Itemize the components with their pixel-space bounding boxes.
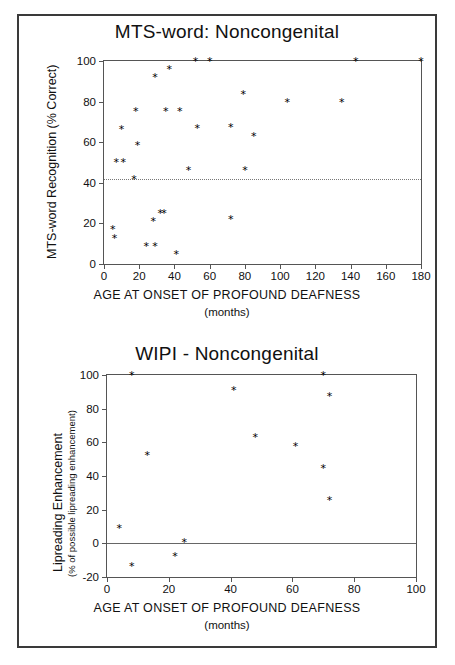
x-tick-label: 40	[224, 583, 237, 595]
y-tick-label: 20	[86, 504, 99, 516]
y-tick	[102, 543, 107, 544]
x-axis-unit-bottom: (months)	[19, 619, 435, 631]
data-point	[143, 451, 152, 460]
data-point	[251, 433, 260, 442]
data-point	[226, 123, 235, 132]
x-tick-label: 80	[348, 583, 361, 595]
data-point	[165, 65, 174, 74]
x-tick	[421, 264, 422, 269]
data-point	[129, 175, 138, 184]
data-point	[159, 209, 168, 218]
y-tick	[99, 102, 104, 103]
y-tick-label: 80	[86, 403, 99, 415]
x-tick	[292, 577, 293, 582]
y-tick-label: 60	[83, 136, 96, 148]
data-point	[131, 107, 140, 116]
data-point	[191, 57, 200, 66]
x-tick-label: 140	[341, 270, 360, 282]
data-point	[319, 371, 328, 380]
data-point	[229, 386, 238, 395]
x-tick	[245, 264, 246, 269]
x-tick-label: 160	[376, 270, 395, 282]
x-tick	[107, 577, 108, 582]
y-tick-label: 0	[90, 258, 96, 270]
data-point	[184, 166, 193, 175]
x-tick-label: 100	[271, 270, 290, 282]
x-tick	[416, 577, 417, 582]
y-tick-label: 60	[86, 436, 99, 448]
x-tick	[280, 264, 281, 269]
data-point	[351, 57, 360, 66]
x-tick	[315, 264, 316, 269]
data-point	[291, 442, 300, 451]
x-tick	[351, 264, 352, 269]
y-tick	[102, 442, 107, 443]
x-tick	[231, 577, 232, 582]
y-tick-label: -20	[82, 571, 99, 583]
x-tick-label: 20	[133, 270, 146, 282]
data-point	[249, 132, 258, 141]
x-tick-label: 40	[168, 270, 181, 282]
data-point	[325, 496, 334, 505]
data-point	[142, 242, 151, 251]
plot-area-bottom: -20020406080100020406080100	[106, 374, 417, 578]
reference-line	[104, 179, 421, 180]
data-point	[283, 98, 292, 107]
data-point	[226, 215, 235, 224]
plot-area-top: 020406080100020406080100120140160180	[103, 60, 422, 265]
figure-frame: MTS-word: Noncongenital 0204060801000204…	[17, 14, 437, 648]
y-tick	[102, 476, 107, 477]
y-tick-label: 40	[86, 470, 99, 482]
x-tick	[139, 264, 140, 269]
x-tick	[354, 577, 355, 582]
data-point	[127, 562, 136, 571]
reference-line	[107, 543, 416, 544]
y-tick-label: 80	[83, 96, 96, 108]
x-tick-label: 80	[238, 270, 251, 282]
data-point	[239, 90, 248, 99]
y-tick-label: 20	[83, 217, 96, 229]
chart-panel-wipi: WIPI - Noncongenital -200204060801000204…	[19, 334, 435, 648]
y-tick	[102, 375, 107, 376]
y-tick-label: 0	[93, 537, 99, 549]
x-tick	[104, 264, 105, 269]
data-point	[417, 57, 426, 66]
data-point	[180, 538, 189, 547]
data-point	[240, 166, 249, 175]
data-point	[115, 524, 124, 533]
x-axis-title-bottom: AGE AT ONSET OF PROFOUND DEAFNESS	[19, 601, 435, 615]
chart-title-top: MTS-word: Noncongenital	[19, 21, 435, 43]
data-point	[319, 464, 328, 473]
x-axis-unit-top: (months)	[19, 306, 435, 318]
y-tick	[99, 61, 104, 62]
data-point	[170, 552, 179, 561]
x-tick-label: 0	[104, 583, 110, 595]
data-point	[117, 125, 126, 134]
y-axis-title-bottom: Lipreading Enhancement	[51, 433, 65, 572]
x-tick-label: 100	[406, 583, 425, 595]
y-tick	[99, 223, 104, 224]
x-tick	[169, 577, 170, 582]
data-point	[151, 73, 160, 82]
data-point	[205, 57, 214, 66]
x-tick	[386, 264, 387, 269]
y-axis-subtitle-bottom: (% of possible lipreading enhancement)	[66, 410, 77, 577]
data-point	[325, 392, 334, 401]
data-point	[172, 250, 181, 259]
x-tick	[210, 264, 211, 269]
x-tick-label: 180	[411, 270, 430, 282]
y-tick-label: 100	[80, 369, 99, 381]
chart-panel-mts-word: MTS-word: Noncongenital 0204060801000204…	[19, 16, 435, 334]
y-tick	[99, 183, 104, 184]
y-tick	[102, 510, 107, 511]
y-tick	[99, 142, 104, 143]
data-point	[119, 158, 128, 167]
data-point	[175, 107, 184, 116]
y-tick	[102, 409, 107, 410]
data-point	[133, 141, 142, 150]
x-axis-title-top: AGE AT ONSET OF PROFOUND DEAFNESS	[19, 288, 435, 302]
data-point	[127, 371, 136, 380]
data-point	[110, 234, 119, 243]
y-tick-label: 100	[77, 55, 96, 67]
data-point	[337, 98, 346, 107]
